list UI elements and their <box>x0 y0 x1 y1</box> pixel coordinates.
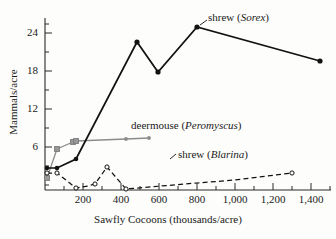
x-tick-label-1000: 1,000 <box>215 194 255 205</box>
axis-lines <box>45 18 331 190</box>
y-tick-label-24: 24 <box>18 27 38 38</box>
x-axis-ticks <box>64 183 330 190</box>
annotation-sorex-plain: shrew <box>208 11 234 23</box>
annotation-sorex-italic: Sorex <box>241 11 266 23</box>
annotation-blarina-close: ) <box>244 148 248 160</box>
x-axis-title: Sawfly Cocoons (thousands/acre) <box>0 213 336 225</box>
annotation-leaders <box>170 20 207 159</box>
series-peromyscus <box>45 136 151 180</box>
annotation-peromyscus-italic: Peromyscus <box>185 119 238 131</box>
chart-figure: 24 18 12 6 200 400 600 800 1,000 1,200 1… <box>0 0 336 239</box>
annotation-peromyscus-close: ) <box>238 119 242 131</box>
annotation-blarina-plain: shrew <box>178 148 204 160</box>
x-tick-label-600: 600 <box>139 194 179 205</box>
y-tick-label-18: 18 <box>18 65 38 76</box>
annotation-peromyscus-plain: deermouse <box>131 119 179 131</box>
y-tick-label-6: 6 <box>18 141 38 152</box>
x-tick-label-400: 400 <box>101 194 141 205</box>
x-tick-label-1400: 1,400 <box>291 194 331 205</box>
annotation-sorex-close: ) <box>265 11 269 23</box>
annotation-peromyscus: deermouse (Peromyscus) <box>131 119 242 131</box>
series-blarina <box>45 165 294 191</box>
y-tick-label-12: 12 <box>18 103 38 114</box>
annotation-blarina-italic: Blarina <box>211 148 245 160</box>
annotation-sorex: shrew (Sorex) <box>208 11 269 23</box>
y-axis-title: Mammals/acre <box>7 62 19 142</box>
x-tick-label-800: 800 <box>177 194 217 205</box>
annotation-blarina: shrew (Blarina) <box>178 148 248 160</box>
x-tick-label-1200: 1,200 <box>253 194 293 205</box>
x-tick-label-200: 200 <box>63 194 103 205</box>
y-axis-ticks <box>45 24 52 185</box>
